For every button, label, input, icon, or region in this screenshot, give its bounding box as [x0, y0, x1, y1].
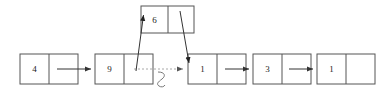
- node-value-label: 9: [107, 64, 112, 74]
- node-value-label: 1: [329, 64, 334, 74]
- node-value-label: 4: [32, 64, 37, 74]
- node-value-label: 3: [265, 64, 270, 74]
- inserted-node-6: 6: [141, 6, 194, 33]
- node-value-label: 6: [152, 15, 157, 25]
- pointer-crossout-mark: [158, 72, 165, 87]
- diagram-canvas: 4 9 1 3 1 6: [0, 0, 387, 92]
- linked-list-diagram: 4 9 1 3 1 6: [0, 0, 387, 92]
- list-node-1-last: 1: [317, 54, 375, 84]
- node-value-label: 1: [200, 64, 205, 74]
- list-node-9: 9: [95, 54, 153, 84]
